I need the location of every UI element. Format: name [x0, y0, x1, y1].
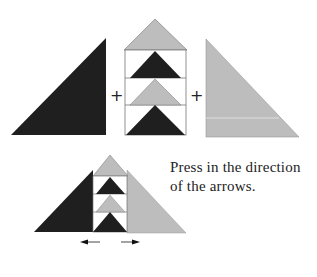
right-arrow-icon: [121, 240, 140, 245]
plus-sign-right: +: [190, 86, 203, 105]
assembled-block: [34, 155, 186, 233]
plus-sign-left: +: [110, 86, 123, 105]
flying-geese-column: [124, 19, 187, 135]
caption-line-1: Press in the direction: [170, 158, 301, 177]
left-arrow-icon: [80, 240, 100, 245]
light-triangle-right: [206, 39, 299, 137]
caption-line-2: of the arrows.: [170, 177, 301, 196]
quilt-assembly-diagram: + +: [0, 0, 317, 277]
instruction-caption: Press in the direction of the arrows.: [170, 158, 301, 196]
dark-triangle-left: [11, 38, 106, 135]
